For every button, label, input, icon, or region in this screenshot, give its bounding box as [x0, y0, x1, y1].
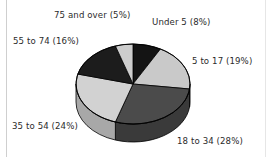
slice-label-55-to-74: 55 to 74 (16%) — [13, 36, 79, 46]
slice-label-5-to-17: 5 to 17 (19%) — [192, 56, 252, 66]
pie-slices — [76, 36, 190, 143]
slice-label-under-5: Under 5 (8%) — [152, 17, 210, 27]
figure-left-border — [6, 0, 7, 157]
pie-chart-figure: 75 and over (5%) Under 5 (8%) 55 to 74 (… — [0, 0, 267, 157]
figure-right-border — [265, 0, 266, 157]
slice-label-35-to-54: 35 to 54 (24%) — [12, 121, 78, 131]
slice-label-18-to-34: 18 to 34 (28%) — [177, 136, 243, 146]
pie-chart-graphic — [76, 36, 190, 143]
slice-label-75-and-over: 75 and over (5%) — [54, 10, 130, 20]
